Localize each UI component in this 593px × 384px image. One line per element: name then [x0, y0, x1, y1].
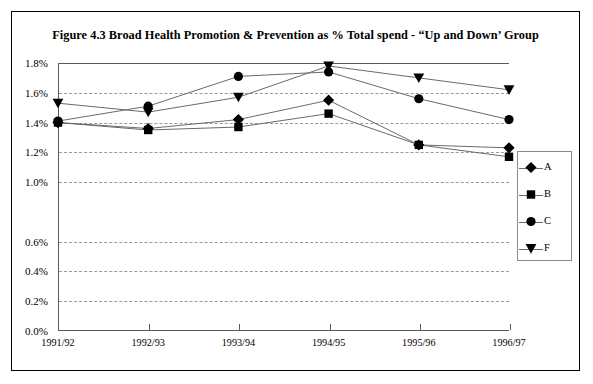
legend-marker-square-icon: [518, 181, 544, 208]
data-point-F: [143, 108, 154, 118]
y-tick-label: 0.6%: [25, 236, 48, 248]
series-line-A: [58, 100, 509, 148]
data-point-B: [505, 153, 513, 161]
legend-label-F: F: [544, 243, 550, 254]
chart-title: Figure 4.3 Broad Health Promotion & Prev…: [12, 28, 579, 43]
legend-label-B: B: [544, 189, 551, 200]
data-point-C: [53, 116, 62, 125]
data-point-B: [324, 109, 332, 117]
x-tick-label: 1995/96: [402, 337, 435, 348]
x-tick-label: 1996/97: [492, 337, 525, 348]
data-point-B: [144, 126, 152, 134]
y-tick-label: 0.4%: [25, 265, 48, 277]
legend-label-C: C: [544, 216, 551, 227]
series-line-C: [58, 72, 509, 121]
series-line-B: [58, 114, 509, 157]
data-point-C: [234, 72, 243, 81]
legend-marker-circle-icon: [518, 208, 544, 235]
legend-item-B[interactable]: B: [518, 181, 571, 208]
data-point-B: [234, 123, 242, 131]
y-axis-labels: 0.0%0.2%0.4%0.6%1.0%1.2%1.4%1.6%1.8%: [10, 63, 54, 331]
data-point-F: [504, 85, 515, 95]
x-tick-label: 1992/93: [131, 337, 164, 348]
y-tick-label: 1.6%: [25, 87, 48, 99]
legend-item-F[interactable]: F: [518, 235, 571, 262]
y-tick-label: 1.8%: [25, 57, 48, 69]
series-line-F: [58, 66, 509, 112]
y-tick-label: 1.0%: [25, 176, 48, 188]
data-point-C: [414, 94, 423, 103]
plot-wrap: 0.0%0.2%0.4%0.6%1.0%1.2%1.4%1.6%1.8% 199…: [58, 63, 509, 331]
x-tick-label: 1994/95: [312, 337, 345, 348]
legend-label-A: A: [544, 162, 552, 173]
data-point-A: [503, 142, 514, 153]
y-tick-label: 1.2%: [25, 146, 48, 158]
figure-frame: Figure 4.3 Broad Health Promotion & Prev…: [11, 11, 580, 371]
series-layer: [58, 63, 509, 331]
legend-marker-triangle-down-icon: [518, 235, 544, 262]
legend-marker-diamond-icon: [518, 154, 544, 181]
data-point-B: [415, 141, 423, 149]
y-tick-label: 1.4%: [25, 117, 48, 129]
legend: ABCF: [517, 151, 572, 261]
x-tick-mark: [510, 324, 511, 330]
y-tick-label: 0.0%: [25, 325, 48, 337]
x-tick-label: 1993/94: [222, 337, 255, 348]
x-tick-label: 1991/92: [41, 337, 74, 348]
y-tick-label: 0.2%: [25, 295, 48, 307]
data-point-C: [504, 115, 513, 124]
data-point-A: [323, 95, 334, 106]
legend-item-A[interactable]: A: [518, 154, 571, 181]
legend-item-C[interactable]: C: [518, 208, 571, 235]
